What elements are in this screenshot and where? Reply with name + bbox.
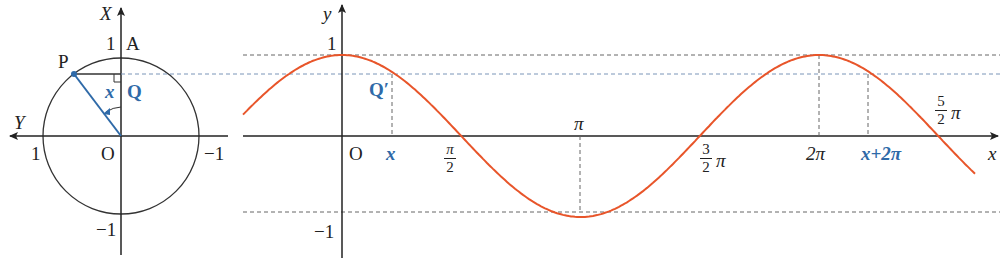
frac-num: π [446, 142, 454, 157]
circle-tick-bottom: −1 [96, 220, 116, 239]
graph-tick-3pi2: 3 2 [700, 142, 712, 175]
graph-tick-3pi2-suffix: π [716, 151, 726, 170]
point-P-dot [71, 71, 77, 77]
frac-den: 2 [446, 160, 454, 175]
point-A-label: A [126, 34, 140, 53]
circle-tick-right: −1 [204, 144, 224, 163]
point-Qprime-label: Q′ [369, 80, 389, 99]
angle-x-label: x [105, 82, 115, 101]
graph-tick-5pi2-suffix: π [951, 103, 961, 122]
frac-num: 3 [702, 142, 710, 157]
right-angle-mark [114, 74, 121, 82]
circle-origin-label: O [101, 144, 115, 163]
graph-x-axis-label: x [988, 144, 996, 163]
frac-num: 5 [937, 94, 945, 109]
point-Q-label: Q [127, 82, 142, 101]
graph-origin-label: O [349, 144, 363, 163]
graph-tick-x-plus-2pi: x+2π [861, 144, 901, 163]
graph-tick-2pi: 2π [806, 144, 825, 163]
angle-arrowhead [103, 108, 110, 115]
circle-tick-top: 1 [106, 34, 116, 53]
graph-tick-x: x [386, 144, 396, 163]
frac-den: 2 [937, 112, 945, 127]
graph-y-axis-label: y [323, 4, 331, 23]
graph-tick-pi: π [574, 114, 584, 133]
point-P-label: P [58, 52, 69, 71]
circle-axis-X-label: X [100, 4, 112, 23]
frac-den: 2 [702, 160, 710, 175]
graph-y-tick-neg1: −1 [314, 222, 334, 241]
circle-tick-left: 1 [31, 144, 41, 163]
diagram-canvas [0, 0, 1003, 261]
unit-circle-figure [10, 8, 228, 255]
cosine-graph [243, 5, 1000, 258]
graph-tick-pi-half: π 2 [444, 142, 456, 175]
circle-axis-Y-label: Y [14, 113, 25, 132]
graph-tick-5pi2: 5 2 [935, 94, 947, 127]
graph-y-tick-1: 1 [327, 34, 337, 53]
